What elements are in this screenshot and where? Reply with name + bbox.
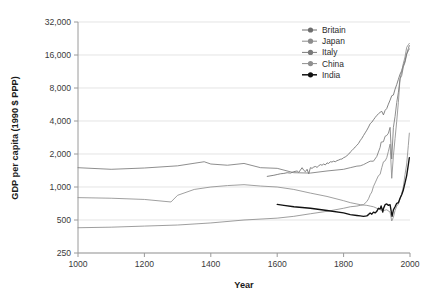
legend-marker-britain — [308, 27, 313, 32]
y-tick-label-250: 250 — [57, 248, 72, 258]
series-line-china — [78, 133, 409, 221]
x-axis-title: Year — [234, 280, 254, 290]
y-tick-label-4000: 4,000 — [49, 116, 71, 126]
data-series — [78, 43, 409, 227]
gridlines — [78, 22, 410, 253]
y-tick-labels: 2505001,0002,0004,0008,00016,00032,000 — [45, 17, 72, 258]
legend-label-china: China — [322, 59, 344, 69]
y-tick-marks — [74, 22, 78, 253]
x-tick-label-1800: 1800 — [334, 259, 353, 269]
chart-canvas: 2505001,0002,0004,0008,00016,00032,000 1… — [0, 0, 428, 300]
x-tick-label-1400: 1400 — [201, 259, 220, 269]
x-tick-label-1000: 1000 — [68, 259, 87, 269]
series-line-japan — [78, 43, 409, 227]
legend-marker-india — [308, 72, 313, 77]
chart-legend: BritainJapanItalyChinaIndia — [302, 25, 346, 80]
gdp-per-capita-chart: 2505001,0002,0004,0008,00016,00032,000 1… — [0, 0, 428, 300]
legend-marker-japan — [308, 39, 313, 44]
y-tick-label-16000: 16,000 — [45, 50, 72, 60]
legend-label-japan: Japan — [322, 36, 345, 46]
legend-marker-italy — [308, 50, 313, 55]
series-line-italy — [78, 49, 409, 173]
y-tick-label-500: 500 — [57, 215, 72, 225]
y-axis-title: GDP per capita (1990 $ PPP) — [10, 76, 20, 199]
x-tick-label-2000: 2000 — [400, 259, 419, 269]
legend-label-italy: Italy — [322, 47, 338, 57]
y-tick-label-32000: 32,000 — [45, 17, 72, 27]
y-tick-label-1000: 1,000 — [49, 182, 71, 192]
y-tick-label-2000: 2,000 — [49, 149, 71, 159]
legend-label-india: India — [322, 70, 341, 80]
x-tick-labels: 100012001400160018002000 — [68, 259, 419, 269]
legend-label-britain: Britain — [322, 25, 346, 35]
x-tick-marks — [78, 253, 410, 257]
legend-marker-china — [308, 61, 313, 66]
axis-lines — [78, 22, 410, 253]
x-tick-label-1200: 1200 — [135, 259, 154, 269]
x-tick-label-1600: 1600 — [268, 259, 287, 269]
y-tick-label-8000: 8,000 — [49, 83, 71, 93]
